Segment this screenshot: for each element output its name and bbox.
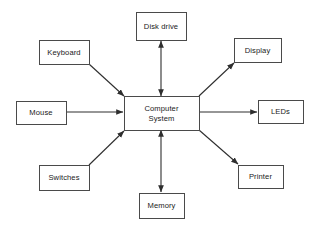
node-label-printer: Printer	[249, 172, 272, 181]
node-printer[interactable]: Printer	[239, 166, 284, 189]
node-label-display: Display	[245, 46, 271, 55]
center-node-layer: ComputerSystem	[125, 97, 200, 131]
block-diagram: Disk driveKeyboardDisplayMouseLEDsSwitch…	[0, 0, 318, 229]
node-disk-drive[interactable]: Disk drive	[137, 13, 187, 41]
node-display[interactable]: Display	[235, 39, 282, 63]
node-label-mouse: Mouse	[29, 108, 52, 117]
node-mouse[interactable]: Mouse	[17, 102, 67, 125]
node-computer-system[interactable]: ComputerSystem	[125, 97, 200, 131]
node-memory[interactable]: Memory	[140, 194, 185, 219]
node-label-keyboard: Keyboard	[47, 48, 80, 57]
node-label-memory: Memory	[147, 201, 175, 210]
node-keyboard[interactable]: Keyboard	[40, 41, 90, 65]
conn-display	[199, 63, 234, 96]
diagram-canvas: Disk driveKeyboardDisplayMouseLEDsSwitch…	[0, 0, 318, 229]
node-switches[interactable]: Switches	[40, 166, 90, 191]
node-leds[interactable]: LEDs	[259, 101, 304, 124]
center-label-line1: Computer	[144, 104, 179, 113]
conn-switches	[89, 131, 124, 165]
node-label-disk-drive: Disk drive	[144, 22, 178, 31]
node-label-leds: LEDs	[271, 107, 290, 116]
center-label-line2: System	[149, 114, 175, 123]
conn-printer	[199, 130, 238, 164]
node-label-switches: Switches	[48, 173, 79, 182]
conn-keyboard	[89, 64, 124, 96]
